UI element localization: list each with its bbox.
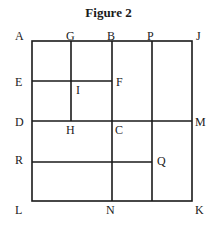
label-m: M (195, 116, 206, 128)
label-q: Q (157, 155, 166, 167)
label-h: H (66, 124, 75, 136)
label-a: A (15, 30, 24, 42)
label-f: F (116, 76, 123, 88)
label-i: I (76, 84, 80, 96)
label-n: N (106, 204, 115, 216)
label-e: E (15, 76, 22, 88)
label-k: K (195, 204, 204, 216)
label-j: J (196, 30, 201, 42)
label-p: P (147, 30, 154, 42)
label-r: R (15, 154, 23, 166)
label-d: D (15, 116, 24, 128)
label-c: C (115, 124, 123, 136)
label-l: L (15, 204, 22, 216)
label-g: G (66, 30, 75, 42)
label-b: B (107, 30, 115, 42)
